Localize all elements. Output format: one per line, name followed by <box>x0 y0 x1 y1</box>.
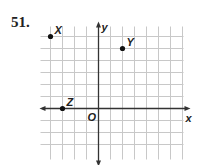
x-axis-label: x <box>185 112 193 124</box>
origin-label: O <box>88 111 97 123</box>
coordinate-grid: yxO XYZ <box>0 0 207 165</box>
point-label-x: X <box>54 24 63 36</box>
y-axis-arrow-up-icon <box>96 22 101 28</box>
y-axis-arrow-down-icon <box>96 161 101 166</box>
x-axis-arrow-left-icon <box>40 106 46 111</box>
grid-lines <box>41 27 184 160</box>
point-label-z: Z <box>66 96 75 108</box>
point-z <box>60 106 65 111</box>
y-axis-label: y <box>101 21 109 33</box>
point-x <box>48 34 53 39</box>
x-axis-arrow-right-icon <box>185 106 191 111</box>
point-y <box>120 46 125 51</box>
